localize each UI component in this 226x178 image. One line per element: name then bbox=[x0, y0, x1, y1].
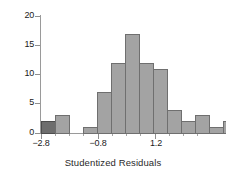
histogram-bar bbox=[195, 115, 210, 134]
histogram-bar bbox=[223, 121, 226, 134]
y-tick-label-20: 20 bbox=[24, 11, 34, 20]
histogram-bar bbox=[153, 69, 168, 134]
y-tick-label-10: 10 bbox=[24, 69, 34, 78]
histogram-bar bbox=[125, 34, 140, 134]
y-tick-0 bbox=[35, 133, 40, 134]
y-tick-15 bbox=[35, 45, 40, 46]
histogram-bar bbox=[55, 115, 70, 134]
x-tick-label-1-2: 1.2 bbox=[136, 138, 176, 148]
x-tick-label-neg2-8: −2.8 bbox=[21, 138, 61, 148]
x-tick-label-neg0-8: −0.8 bbox=[78, 138, 118, 148]
histogram-bar bbox=[97, 92, 112, 134]
histogram-bar bbox=[181, 121, 196, 134]
y-tick-20 bbox=[35, 16, 40, 17]
y-tick-label-15: 15 bbox=[24, 40, 34, 49]
histogram-bar bbox=[209, 127, 224, 134]
histogram-bar bbox=[139, 63, 154, 134]
histogram-bar bbox=[111, 63, 126, 134]
y-tick-10 bbox=[35, 74, 40, 75]
y-tick-label-5: 5 bbox=[29, 98, 34, 107]
histogram-bar bbox=[83, 127, 98, 134]
plot-area: 20 15 10 5 0 −2.8 −0.8 1.2 Studentized R… bbox=[0, 0, 226, 178]
histogram-bar bbox=[41, 121, 56, 134]
x-axis-title: Studentized Residuals bbox=[0, 157, 226, 168]
y-tick-label-0: 0 bbox=[29, 128, 34, 137]
y-axis-line bbox=[40, 15, 41, 134]
y-tick-5 bbox=[35, 103, 40, 104]
histogram-bar bbox=[167, 110, 182, 134]
histogram-chart: 20 15 10 5 0 −2.8 −0.8 1.2 Studentized R… bbox=[0, 0, 226, 178]
